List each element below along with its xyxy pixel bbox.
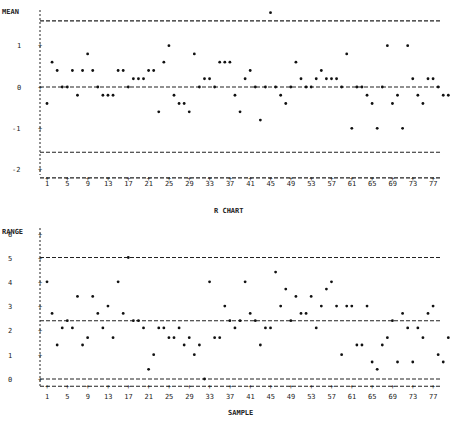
y-tick-label: 1	[17, 42, 21, 50]
data-point	[371, 361, 374, 364]
data-point	[51, 312, 54, 315]
data-point	[401, 312, 404, 315]
data-point	[157, 110, 160, 113]
data-point	[218, 336, 221, 339]
data-point	[376, 368, 379, 371]
data-point	[46, 280, 49, 283]
svg-text:+: +	[350, 383, 354, 391]
x-tick-label: 9	[86, 393, 90, 401]
data-point	[284, 102, 287, 105]
svg-text:+: +	[38, 84, 42, 92]
svg-text:+: +	[38, 327, 42, 335]
data-point	[376, 127, 379, 130]
data-point	[142, 327, 145, 330]
data-point	[193, 353, 196, 356]
x-tick-label: 41	[246, 180, 254, 188]
x-tick-label: 1	[45, 393, 49, 401]
data-point	[249, 69, 252, 72]
data-point	[137, 319, 140, 322]
data-point	[259, 119, 262, 122]
data-point	[228, 319, 231, 322]
data-point	[168, 44, 171, 47]
data-point	[228, 61, 231, 64]
data-point	[203, 378, 206, 381]
data-point	[127, 86, 130, 89]
data-point	[259, 344, 262, 347]
data-point	[234, 327, 237, 330]
x-tick-label: 37	[226, 180, 234, 188]
y-tick-label: 0	[17, 84, 21, 92]
svg-text:+: +	[38, 125, 42, 133]
data-point	[437, 86, 440, 89]
x-tick-label: 33	[206, 180, 214, 188]
data-point	[101, 327, 104, 330]
data-point	[157, 327, 160, 330]
data-point	[411, 361, 414, 364]
data-point	[86, 53, 89, 56]
svg-text:+: +	[309, 383, 313, 391]
data-point	[345, 53, 348, 56]
data-point	[305, 86, 308, 89]
data-point	[330, 77, 333, 80]
data-point	[396, 361, 399, 364]
x-tick-label: 5	[65, 180, 69, 188]
x-tick-label: 37	[226, 393, 234, 401]
data-point	[168, 336, 171, 339]
x-tick-label: 57	[327, 393, 335, 401]
y-axis-label: MEAN	[2, 8, 19, 16]
svg-text:+: +	[38, 279, 42, 287]
data-point	[416, 327, 419, 330]
data-point	[315, 77, 318, 80]
data-point	[127, 256, 130, 259]
data-point	[117, 69, 120, 72]
x-tick-label: 5	[65, 393, 69, 401]
data-point	[66, 86, 69, 89]
x-tick-label: 13	[104, 180, 112, 188]
data-point	[234, 94, 237, 97]
data-point	[117, 280, 120, 283]
data-point	[81, 344, 84, 347]
data-point	[86, 336, 89, 339]
data-point	[198, 344, 201, 347]
x-tick-label: 29	[185, 393, 193, 401]
svg-text:+: +	[390, 383, 394, 391]
data-point	[51, 61, 54, 64]
r-chart-title: R CHART	[214, 207, 244, 215]
x-tick-label: 21	[145, 393, 153, 401]
data-point	[208, 280, 211, 283]
svg-text:+: +	[38, 303, 42, 311]
data-point	[244, 77, 247, 80]
data-point	[406, 327, 409, 330]
x-tick-label: 25	[165, 393, 173, 401]
svg-text:+: +	[38, 352, 42, 360]
data-point	[381, 86, 384, 89]
x-tick-label: 73	[409, 393, 417, 401]
svg-text:+: +	[38, 166, 42, 174]
data-point	[325, 288, 328, 291]
svg-text:+: +	[370, 383, 374, 391]
data-point	[61, 86, 64, 89]
data-point	[76, 94, 79, 97]
data-point	[396, 94, 399, 97]
x-tick-label: 17	[124, 180, 132, 188]
x-tick-label: 49	[287, 393, 295, 401]
control-charts: MEAN1+0+-1+-2++1+5+9+13+17+21+25+29+33+3…	[0, 0, 459, 429]
data-point	[300, 312, 303, 315]
data-point	[208, 77, 211, 80]
data-point	[81, 69, 84, 72]
data-point	[122, 312, 125, 315]
data-point	[193, 53, 196, 56]
data-point	[442, 94, 445, 97]
data-point	[239, 110, 242, 113]
data-point	[320, 69, 323, 72]
data-point	[310, 295, 313, 298]
svg-text:+: +	[269, 383, 273, 391]
x-tick-label: 33	[206, 393, 214, 401]
svg-text:+: +	[45, 383, 49, 391]
svg-text:+: +	[126, 383, 130, 391]
data-point	[96, 312, 99, 315]
data-point	[147, 69, 150, 72]
data-point	[355, 86, 358, 89]
data-point	[335, 305, 338, 308]
data-point	[188, 110, 191, 113]
